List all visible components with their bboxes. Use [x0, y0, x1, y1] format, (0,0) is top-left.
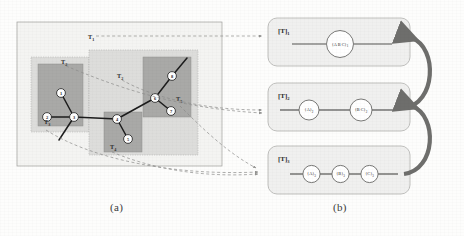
panel-b: [T]1 {A B C}1 [T]2 {A}2 {B C}2 [268, 18, 430, 194]
level-2[interactable]: [T]2 {A}2 {B C}2 [268, 83, 410, 131]
caption-b: (b) [333, 201, 347, 213]
node-3: 3 [70, 113, 79, 122]
node-4: 4 [113, 115, 122, 124]
node-8: 8 [168, 72, 177, 81]
figure-canvas: 1 2 3 4 5 6 7 [0, 0, 464, 236]
level-3[interactable]: [T]3 {A}3 {B}3 {C}3 [268, 146, 410, 194]
figure-page: 1 2 3 4 5 6 7 [0, 0, 464, 236]
node-7: 7 [167, 107, 176, 116]
node-5: 5 [124, 135, 133, 144]
panel-a: 1 2 3 4 5 6 7 [17, 22, 262, 175]
level-2-box[interactable] [268, 83, 410, 131]
level-1[interactable]: [T]1 {A B C}1 [268, 18, 410, 66]
caption-a: (a) [110, 201, 123, 213]
node-1-label: 1 [60, 91, 62, 96]
node-1: 1 [57, 89, 66, 98]
